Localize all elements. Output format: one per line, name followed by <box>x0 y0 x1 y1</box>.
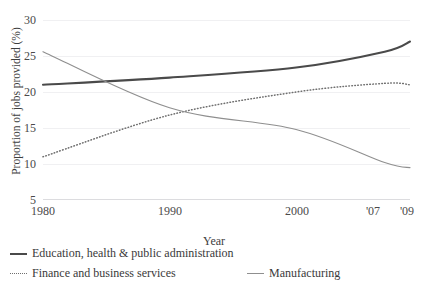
legend-item-manufacturing[interactable]: Manufacturing <box>247 267 340 279</box>
legend-swatch-solid-thin-icon <box>247 269 264 278</box>
legend-label-manufacturing: Manufacturing <box>269 267 340 279</box>
line-manufacturing <box>43 52 410 168</box>
legend-row-2: Finance and business services Manufactur… <box>0 267 428 283</box>
legend-label-education: Education, health & public administratio… <box>32 247 234 259</box>
legend-swatch-solid-thick-icon <box>10 249 27 258</box>
x-tick-07: '07 <box>358 204 388 219</box>
x-tick-1980: 1980 <box>23 204 63 219</box>
legend-swatch-dotted-icon <box>10 269 27 278</box>
chart-canvas: 30 25 20 15 10 5 Proportion of jobs prov… <box>0 0 428 283</box>
legend-label-finance: Finance and business services <box>32 267 176 279</box>
plot-area <box>43 20 410 200</box>
legend-item-education[interactable]: Education, health & public administratio… <box>10 247 234 259</box>
x-tick-2000: 2000 <box>277 204 317 219</box>
x-tick-1990: 1990 <box>150 204 190 219</box>
y-axis-title: Proportion of jobs provided (%) <box>10 21 22 181</box>
legend-row-1: Education, health & public administratio… <box>0 247 428 264</box>
x-tick-09: '09 <box>392 204 422 219</box>
series-lines <box>43 20 410 200</box>
chart-legend: Education, health & public administratio… <box>0 247 428 283</box>
line-finance-business-services <box>43 83 410 157</box>
legend-item-finance[interactable]: Finance and business services <box>10 267 176 279</box>
